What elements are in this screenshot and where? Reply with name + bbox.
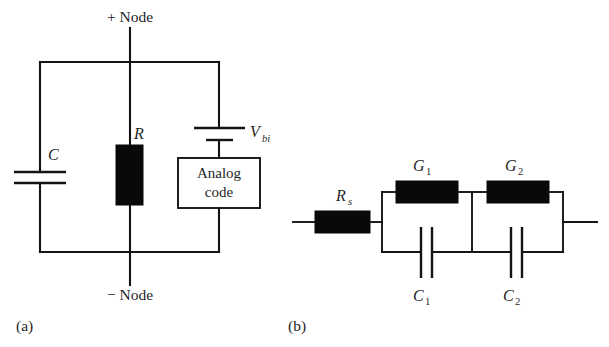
capacitor-c2-label: C — [503, 287, 514, 304]
capacitor-c-label: C — [48, 146, 59, 163]
analog-code-line2: code — [205, 184, 234, 200]
conductance-g1-subscript: 1 — [426, 166, 431, 177]
resistor-rs-body — [315, 211, 370, 233]
conductance-g1-label: G — [413, 157, 425, 174]
resistor-rs-subscript: s — [348, 196, 352, 207]
capacitor-c1-subscript: 1 — [425, 296, 430, 307]
capacitor-c2-subscript: 2 — [515, 296, 520, 307]
bottom-terminal-label: − Node — [107, 286, 153, 303]
analog-code-line1: Analog — [197, 165, 242, 181]
capacitor-c1-label: C — [413, 287, 424, 304]
resistor-r-body — [116, 145, 143, 205]
conductance-g2-subscript: 2 — [518, 166, 523, 177]
circuit-b-group: R s G 1 C 1 G 2 C 2 — [288, 157, 597, 335]
top-terminal-label: + Node — [107, 8, 153, 25]
circuit-a-group: C R V bi Analog code + Node − Node (a) — [14, 8, 270, 335]
resistor-rs-label: R — [335, 187, 346, 204]
figure-canvas: C R V bi Analog code + Node − Node (a) R… — [0, 0, 609, 347]
subfigure-label-b: (b) — [288, 317, 306, 335]
conductance-g2-label: G — [505, 157, 517, 174]
source-vbi-subscript: bi — [262, 133, 270, 144]
conductance-g1-body — [396, 181, 458, 203]
circuit-figure: C R V bi Analog code + Node − Node (a) R… — [0, 0, 609, 347]
source-vbi-label: V — [250, 123, 262, 140]
conductance-g2-body — [487, 181, 549, 203]
resistor-r-label: R — [133, 125, 144, 142]
subfigure-label-a: (a) — [16, 317, 33, 335]
